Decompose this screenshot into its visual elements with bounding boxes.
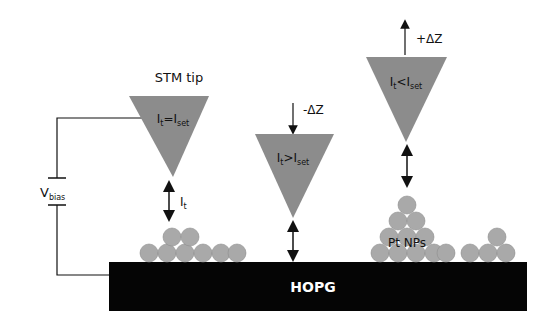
stm-tip-2	[255, 134, 334, 218]
tip-3-move: +ΔZ	[416, 32, 442, 46]
hopg-label: HOPG	[290, 279, 335, 295]
pt-nps-label: Pt NPs	[388, 236, 426, 250]
pt-cluster-right	[461, 228, 515, 262]
stm-diagram: Vbias HOPG Pt NPs STM tip It=Iset It -ΔZ…	[0, 0, 550, 332]
current-label: It	[180, 195, 187, 211]
pt-cluster-middle	[371, 196, 455, 262]
tip-2-move: -ΔZ	[303, 103, 324, 117]
stm-tip-title: STM tip	[155, 70, 204, 85]
stm-tip-3	[366, 57, 447, 142]
bias-label: Vbias	[40, 185, 65, 202]
stm-tip-1	[129, 96, 209, 177]
pt-cluster-left	[140, 228, 246, 262]
